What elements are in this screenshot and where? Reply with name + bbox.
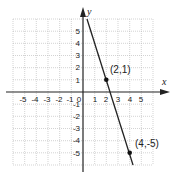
x-tick: 2 xyxy=(104,95,109,104)
point-2-1 xyxy=(104,78,109,83)
y-tick: 1 xyxy=(76,76,81,85)
y-tick: -4 xyxy=(73,136,81,145)
y-tick: -1 xyxy=(73,100,81,109)
x-axis: x xyxy=(6,76,170,95)
point-4-neg5 xyxy=(127,151,132,156)
x-tick: 5 xyxy=(139,95,144,104)
x-tick: -4 xyxy=(31,95,39,104)
y-tick: 2 xyxy=(76,63,81,72)
coordinate-plane: x y -5 -4 -3 -2 -1 0 1 2 3 4 5 5 4 3 2 1… xyxy=(0,0,182,176)
x-tick: 4 xyxy=(128,95,133,104)
x-tick-labels: -5 -4 -3 -2 -1 0 1 2 3 4 5 xyxy=(19,95,143,104)
y-tick: 5 xyxy=(76,27,81,36)
x-tick: -5 xyxy=(19,95,27,104)
point-label-4-neg5: (4,-5) xyxy=(135,138,159,149)
y-tick: -2 xyxy=(73,112,81,121)
x-axis-arrow-icon xyxy=(160,89,170,95)
y-axis-arrow-icon xyxy=(80,7,86,17)
y-tick: -5 xyxy=(73,149,81,158)
y-axis-label: y xyxy=(86,6,92,17)
y-tick: -3 xyxy=(73,124,81,133)
x-tick: -3 xyxy=(43,95,51,104)
y-tick: 4 xyxy=(76,39,81,48)
point-label-2-1: (2,1) xyxy=(110,64,131,75)
x-tick: 3 xyxy=(116,95,121,104)
x-tick: 1 xyxy=(93,95,98,104)
x-axis-label: x xyxy=(161,76,167,87)
y-tick: 3 xyxy=(76,51,81,60)
x-tick: -2 xyxy=(55,95,63,104)
